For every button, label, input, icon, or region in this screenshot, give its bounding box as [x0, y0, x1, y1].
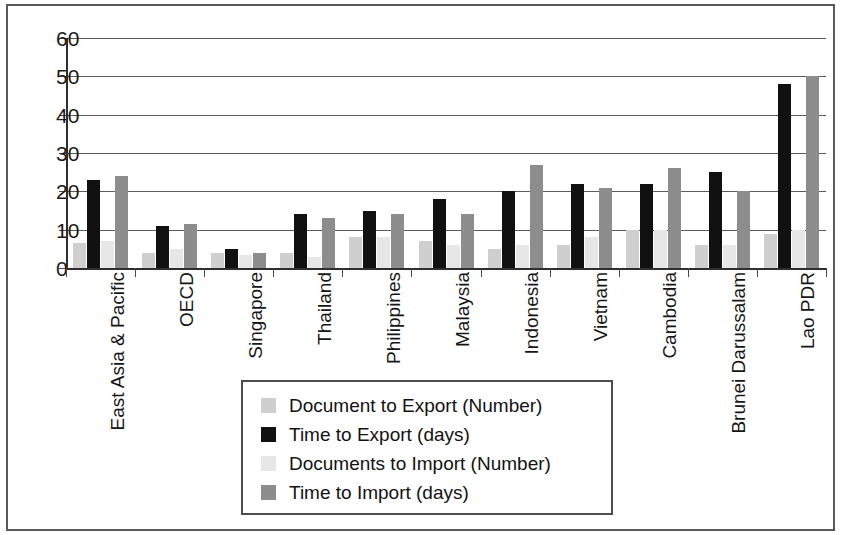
bar	[668, 168, 681, 268]
bar	[792, 230, 805, 268]
bar-group	[488, 38, 543, 268]
x-axis-category-label: Philippines	[384, 272, 403, 364]
bar	[516, 245, 529, 268]
bar	[349, 237, 362, 268]
bar	[447, 245, 460, 268]
bar	[626, 230, 639, 268]
bar	[737, 191, 750, 268]
bar	[73, 243, 86, 268]
bar	[363, 211, 376, 269]
bar-group	[73, 38, 128, 268]
x-axis	[66, 268, 826, 270]
y-axis-tick-label: 40	[56, 104, 66, 125]
legend-swatch	[261, 398, 276, 413]
x-axis-category-label: OECD	[177, 272, 196, 327]
x-axis-category-label: Indonesia	[522, 272, 541, 354]
legend-label: Documents to Import (Number)	[289, 454, 551, 473]
legend-label: Time to Import (days)	[289, 483, 469, 502]
bar	[211, 253, 224, 268]
x-axis-category-label: Thailand	[315, 272, 334, 345]
bar	[571, 184, 584, 268]
bar	[170, 249, 183, 268]
bar-group	[280, 38, 335, 268]
bar	[778, 84, 791, 268]
bar	[142, 253, 155, 268]
x-axis-category-label: Singapore	[246, 272, 265, 359]
plot-area: 0102030405060	[66, 38, 826, 268]
chart-figure: 0102030405060 East Asia & PacificOECDSin…	[0, 0, 841, 535]
x-axis-category-label: Cambodia	[660, 272, 679, 359]
y-axis-tick-label: 60	[56, 28, 66, 49]
bar	[640, 184, 653, 268]
bar	[322, 218, 335, 268]
legend-swatch	[261, 456, 276, 471]
bar	[377, 237, 390, 268]
bar	[530, 165, 543, 269]
bar	[225, 249, 238, 268]
bar	[502, 191, 515, 268]
legend-swatch	[261, 427, 276, 442]
bar	[806, 76, 819, 268]
y-axis-tick-label: 20	[56, 181, 66, 202]
x-axis-category-label: Vietnam	[591, 272, 610, 341]
bar-group	[695, 38, 750, 268]
bar	[433, 199, 446, 268]
y-axis-tick-label: 10	[56, 219, 66, 240]
bar	[488, 249, 501, 268]
y-axis	[66, 38, 68, 268]
bar	[391, 214, 404, 268]
bar	[239, 255, 252, 268]
bar-group	[211, 38, 266, 268]
x-axis-category-label: Malaysia	[453, 272, 472, 347]
bar	[253, 253, 266, 268]
x-axis-category-labels: East Asia & PacificOECDSingaporeThailand…	[66, 272, 826, 382]
bar-group	[349, 38, 404, 268]
legend-item: Time to Export (days)	[261, 420, 611, 449]
bar	[461, 214, 474, 268]
bar-group	[419, 38, 474, 268]
bar	[764, 234, 777, 269]
legend-item: Time to Import (days)	[261, 478, 611, 507]
bar	[101, 241, 114, 268]
y-axis-tick-label: 0	[56, 258, 66, 279]
bar	[723, 245, 736, 268]
bar-group	[626, 38, 681, 268]
bar	[294, 214, 307, 268]
bar	[709, 172, 722, 268]
bar-group	[557, 38, 612, 268]
bar-group	[142, 38, 197, 268]
bar	[695, 245, 708, 268]
chart-legend: Document to Export (Number)Time to Expor…	[241, 380, 613, 515]
bar	[280, 253, 293, 268]
legend-swatch	[261, 485, 276, 500]
legend-item: Document to Export (Number)	[261, 391, 611, 420]
bar	[654, 230, 667, 268]
bar-group	[764, 38, 819, 268]
bar	[599, 188, 612, 269]
bar	[419, 241, 432, 268]
x-axis-tick	[826, 268, 827, 277]
bar	[115, 176, 128, 268]
bar	[156, 226, 169, 268]
bars-layer	[66, 38, 826, 268]
x-axis-category-label: Brunei Darussalam	[729, 272, 748, 434]
bar	[308, 257, 321, 269]
bar	[184, 224, 197, 268]
legend-label: Time to Export (days)	[289, 425, 470, 444]
bar	[87, 180, 100, 268]
x-axis-category-label: East Asia & Pacific	[108, 272, 127, 430]
y-axis-tick-label: 30	[56, 143, 66, 164]
legend-label: Document to Export (Number)	[289, 396, 542, 415]
y-axis-tick-label: 50	[56, 66, 66, 87]
bar	[585, 237, 598, 268]
legend-item: Documents to Import (Number)	[261, 449, 611, 478]
x-axis-category-label: Lao PDR	[798, 272, 817, 349]
bar	[557, 245, 570, 268]
